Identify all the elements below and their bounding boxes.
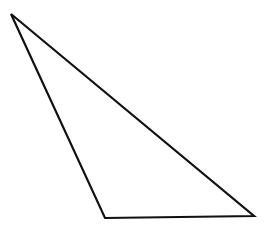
diagram-canvas xyxy=(0,0,270,228)
triangle-shape xyxy=(11,14,254,218)
triangle-diagram xyxy=(0,0,270,228)
